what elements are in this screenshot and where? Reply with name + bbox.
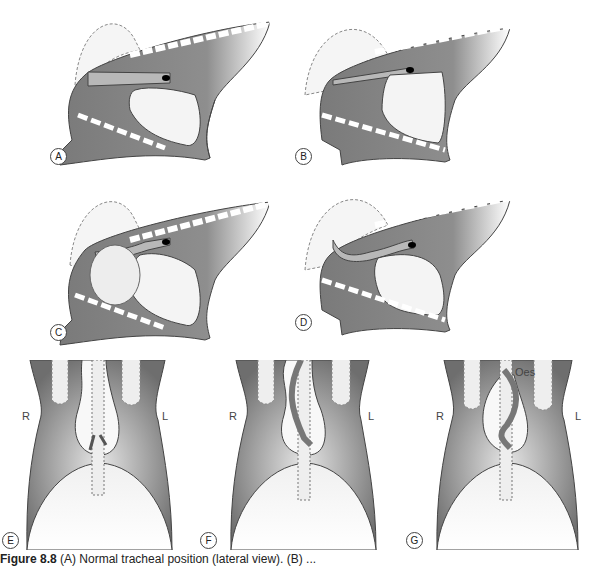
lateral-thorax-diagram [300, 180, 589, 360]
panel-f: R L F [196, 360, 392, 550]
side-label-right: R [229, 410, 237, 422]
panel-e: R L E [0, 360, 196, 550]
panel-label-c: C [50, 324, 67, 341]
figure-caption: Figure 8.8 (A) Normal tracheal position … [0, 552, 589, 568]
side-label-left: L [368, 410, 374, 422]
ventrodorsal-thorax-diagram [0, 360, 196, 550]
lateral-thorax-diagram [300, 0, 589, 180]
panel-label-g: G [406, 532, 423, 549]
caption-prefix: Figure 8.8 [0, 552, 57, 566]
annotation-oes: Oes [515, 366, 535, 378]
panel-label-e: E [2, 532, 19, 549]
panel-label-a: A [50, 148, 67, 165]
panel-label-d: D [295, 314, 312, 331]
ventrodorsal-thorax-diagram [196, 360, 392, 550]
ventrodorsal-thorax-diagram [392, 360, 589, 550]
side-label-left: L [575, 410, 581, 422]
panel-a: A [0, 0, 300, 180]
side-label-right: R [22, 410, 30, 422]
panel-d: D [300, 180, 589, 360]
panel-g: Oes R L G [392, 360, 589, 550]
lateral-thorax-diagram [0, 180, 300, 360]
panel-c: C [0, 180, 300, 360]
panel-label-f: F [200, 532, 217, 549]
lateral-thorax-diagram [0, 0, 300, 180]
panel-label-b: B [295, 148, 312, 165]
panel-b: B [300, 0, 589, 180]
side-label-left: L [162, 410, 168, 422]
caption-text: (A) Normal tracheal position (lateral vi… [57, 552, 316, 566]
side-label-right: R [436, 410, 444, 422]
